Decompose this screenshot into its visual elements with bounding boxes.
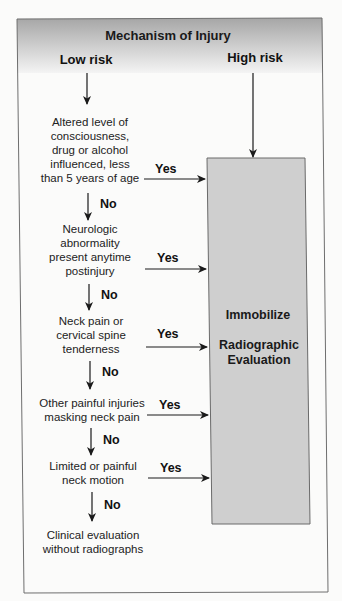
flowchart-canvas: Mechanism of Injury Low risk High risk A… <box>0 0 342 601</box>
node-2-line: Neurologic <box>49 222 131 236</box>
node-4-line: masking neck pain <box>39 410 144 424</box>
no-label-4: No <box>103 433 120 447</box>
flowchart-graphics <box>0 0 342 601</box>
terminal-line: Clinical evaluation <box>43 528 143 542</box>
terminal-outcome: Clinical evaluation without radiographs <box>43 528 143 556</box>
node-2-question: Neurologic abnormality present anytime p… <box>49 222 131 278</box>
high-risk-label: High risk <box>227 51 283 65</box>
node-1-line: drug or alcohol <box>41 143 139 157</box>
node-3-line: tenderness <box>56 342 126 356</box>
node-3-line: Neck pain or <box>56 314 126 328</box>
node-5-question: Limited or painful neck motion <box>49 459 137 487</box>
action-line: Evaluation <box>219 353 299 368</box>
node-1-line: influenced, less <box>41 157 139 171</box>
yes-label-5: Yes <box>160 461 182 475</box>
yes-label-1: Yes <box>155 162 177 176</box>
action-radiographic-evaluation: Radiographic Evaluation <box>219 338 299 368</box>
diagram-title: Mechanism of Injury <box>105 29 231 43</box>
action-line: Radiographic <box>219 338 299 353</box>
node-3-question: Neck pain or cervical spine tenderness <box>56 314 126 356</box>
node-5-line: neck motion <box>49 473 137 487</box>
low-risk-label: Low risk <box>60 53 113 67</box>
node-3-line: cervical spine <box>56 328 126 342</box>
node-2-line: abnormality <box>49 236 131 250</box>
node-4-question: Other painful injuries masking neck pain <box>39 396 144 424</box>
no-label-5: No <box>104 498 121 512</box>
yes-label-2: Yes <box>157 251 179 265</box>
node-5-line: Limited or painful <box>49 459 137 473</box>
yes-label-3: Yes <box>157 327 179 341</box>
node-1-line: Altered level of <box>41 115 139 129</box>
node-2-line: present anytime <box>49 250 131 264</box>
no-label-3: No <box>102 365 119 379</box>
node-1-line: consciousness, <box>41 129 139 143</box>
terminal-line: without radiographs <box>43 542 143 556</box>
yes-label-4: Yes <box>159 398 181 412</box>
node-4-line: Other painful injuries <box>39 396 144 410</box>
node-2-line: postinjury <box>49 264 131 278</box>
action-immobilize: Immobilize <box>226 308 291 323</box>
no-label-1: No <box>100 197 117 211</box>
node-1-line: than 5 years of age <box>41 171 139 185</box>
no-label-2: No <box>101 288 118 302</box>
node-1-question: Altered level of consciousness, drug or … <box>41 115 139 185</box>
